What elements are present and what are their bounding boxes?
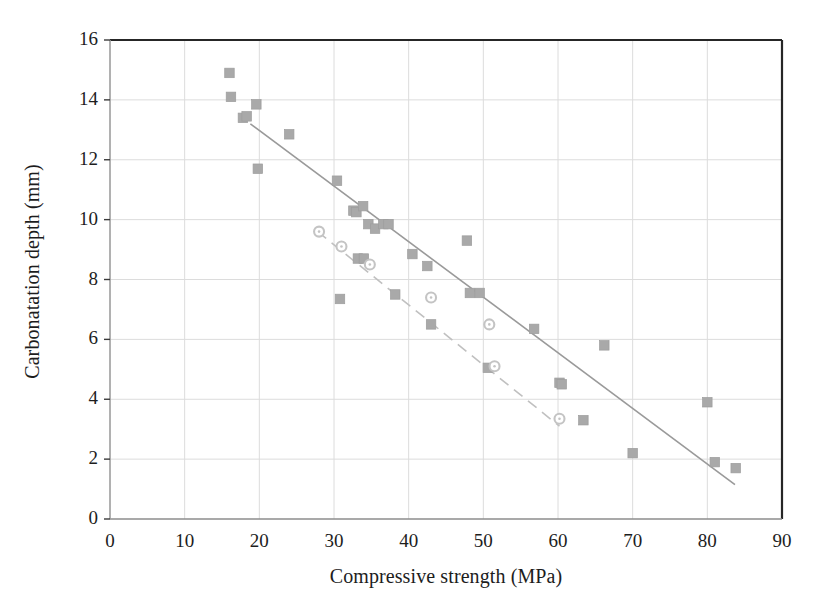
y-tick-label: 12 <box>58 148 98 170</box>
data-point-square <box>529 324 539 334</box>
data-point-square <box>332 176 342 186</box>
data-point-circle-center <box>430 296 433 299</box>
x-tick-label: 30 <box>314 530 354 552</box>
x-tick-label: 20 <box>239 530 279 552</box>
x-tick-label: 40 <box>389 530 429 552</box>
series-squares <box>225 68 741 473</box>
data-point-square <box>284 130 294 140</box>
data-point-square <box>253 164 263 174</box>
x-tick-label: 0 <box>90 530 130 552</box>
data-point-circle-center <box>558 417 561 420</box>
x-tick-label: 60 <box>538 530 578 552</box>
x-tick-label: 50 <box>463 530 503 552</box>
y-tick-label: 0 <box>58 507 98 529</box>
data-point-circle-center <box>369 263 372 266</box>
y-tick-label: 4 <box>58 387 98 409</box>
data-point-square <box>225 68 235 78</box>
x-tick-label: 90 <box>762 530 802 552</box>
y-tick-label: 10 <box>58 208 98 230</box>
chart-figure: Carbonatation depth (mm) Compressive str… <box>0 0 827 614</box>
y-tick-label: 14 <box>58 88 98 110</box>
series-circles <box>314 227 564 424</box>
data-point-square <box>242 112 252 122</box>
scatter-plot-canvas <box>0 0 827 614</box>
x-tick-label: 80 <box>687 530 727 552</box>
x-tick-label: 70 <box>613 530 653 552</box>
y-tick-label: 2 <box>58 447 98 469</box>
y-tick-label: 6 <box>58 327 98 349</box>
data-point-square <box>426 320 436 330</box>
data-point-square <box>226 92 236 102</box>
data-point-square <box>579 415 589 425</box>
data-point-circle-center <box>493 365 496 368</box>
data-point-square <box>600 341 610 351</box>
data-point-circle-center <box>488 323 491 326</box>
data-point-square <box>335 294 345 304</box>
data-point-circle-center <box>318 230 321 233</box>
gridlines <box>110 40 782 519</box>
y-tick-label: 8 <box>58 268 98 290</box>
data-point-square <box>731 463 741 473</box>
data-point-square <box>628 448 638 458</box>
trendlines <box>250 124 735 485</box>
x-tick-label: 10 <box>165 530 205 552</box>
data-point-square <box>423 261 433 271</box>
y-tick-label: 16 <box>58 28 98 50</box>
data-point-square <box>557 380 567 390</box>
data-point-square <box>462 236 472 246</box>
data-point-square <box>408 249 418 259</box>
data-point-square <box>710 457 720 467</box>
data-point-square <box>475 288 485 298</box>
data-point-square <box>384 219 394 229</box>
data-point-square <box>465 288 475 298</box>
data-point-square <box>703 397 713 407</box>
data-point-square <box>358 201 368 211</box>
solid-trendline <box>250 124 735 485</box>
data-point-circle-center <box>340 245 343 248</box>
data-point-square <box>390 290 400 300</box>
data-point-square <box>252 100 262 110</box>
